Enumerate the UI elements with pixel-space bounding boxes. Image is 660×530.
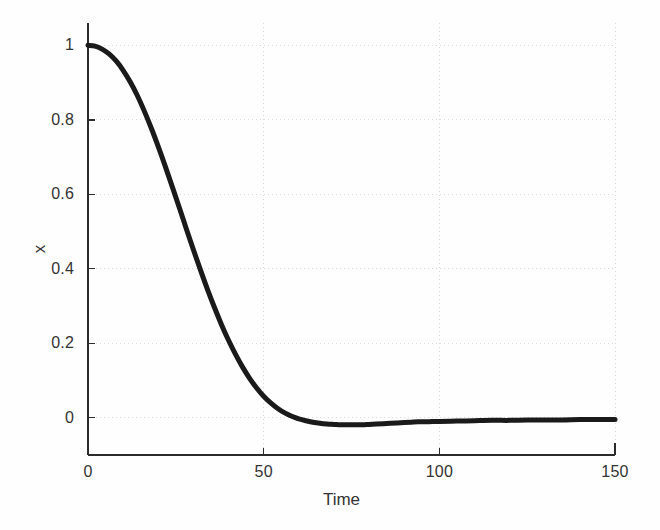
- y-axis-label: x: [30, 245, 50, 254]
- data-curve: [88, 45, 615, 425]
- figure-canvas: 050100150 00.20.40.60.81 Time x: [0, 0, 660, 530]
- x-axis-label: Time: [323, 490, 360, 510]
- data-curves-group: [88, 45, 615, 425]
- plot-svg: [0, 0, 660, 530]
- y-tick-label: 1: [0, 36, 74, 54]
- y-tick-label: 0.2: [0, 334, 74, 352]
- gridlines-group: [88, 23, 615, 455]
- x-tick-label: 0: [83, 463, 92, 481]
- y-tick-label: 0.6: [0, 185, 74, 203]
- y-tick-label: 0.8: [0, 111, 74, 129]
- y-tick-label: 0: [0, 409, 74, 427]
- y-tick-label: 0.4: [0, 260, 74, 278]
- axis-lines-group: [88, 23, 615, 455]
- x-tick-label: 150: [601, 463, 628, 481]
- x-tick-label: 100: [426, 463, 453, 481]
- x-tick-label: 50: [255, 463, 273, 481]
- tick-marks-group: [88, 45, 615, 455]
